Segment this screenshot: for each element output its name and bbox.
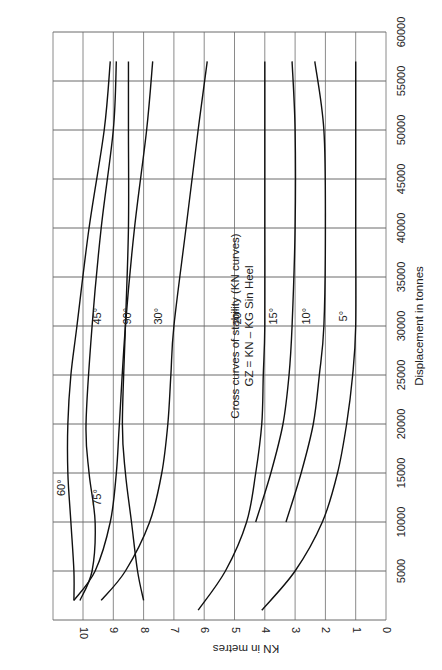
tick-label-displacement: 25000 bbox=[395, 360, 407, 391]
curves bbox=[67, 61, 355, 610]
tick-label-displacement: 20000 bbox=[395, 409, 407, 440]
tick-label-kn: 6 bbox=[199, 627, 211, 633]
curve-5-deg bbox=[262, 61, 356, 610]
displacement-tick-labels: 5000100001500020000250003000035000400004… bbox=[395, 17, 407, 584]
y-axis-label: KN in metres bbox=[213, 643, 280, 655]
tick-label-kn: 7 bbox=[169, 627, 181, 633]
tick-label-kn: 3 bbox=[290, 627, 302, 633]
chart-container: 5°10°15°20°30°45°60°75°90° 5000100001500… bbox=[0, 0, 442, 670]
chart-title: Cross curves of stability (KN curves) bbox=[229, 233, 241, 418]
grid bbox=[53, 32, 386, 620]
tick-label-kn: 5 bbox=[230, 627, 242, 633]
tick-label-kn: 10 bbox=[78, 627, 90, 639]
curve-label: 60° bbox=[55, 479, 67, 496]
tick-label-displacement: 15000 bbox=[395, 458, 407, 489]
curve-label: 75° bbox=[91, 489, 103, 506]
tick-label-kn: 4 bbox=[260, 627, 272, 633]
tick-label-kn: 2 bbox=[320, 627, 332, 633]
tick-label-kn: 1 bbox=[351, 627, 363, 633]
tick-label-displacement: 35000 bbox=[395, 262, 407, 293]
curve-label: 5° bbox=[337, 311, 349, 322]
curve-label: 90° bbox=[121, 308, 133, 325]
tick-label-displacement: 50000 bbox=[395, 115, 407, 146]
curve-label: 15° bbox=[267, 308, 279, 325]
tick-label-kn: 9 bbox=[108, 627, 120, 633]
tick-label-displacement: 40000 bbox=[395, 213, 407, 244]
tick-label-displacement: 55000 bbox=[395, 66, 407, 97]
tick-label-displacement: 45000 bbox=[395, 164, 407, 195]
tick-label-displacement: 10000 bbox=[395, 507, 407, 538]
curve-label: 10° bbox=[300, 308, 312, 325]
x-axis-label: Displacement in tonnes bbox=[413, 266, 425, 386]
curve-60-deg bbox=[67, 61, 110, 600]
curve-labels: 5°10°15°20°30°45°60°75°90° bbox=[55, 308, 349, 506]
tick-label-displacement: 5000 bbox=[395, 559, 407, 583]
tick-label-displacement: 60000 bbox=[395, 17, 407, 48]
curve-90-deg bbox=[122, 61, 143, 600]
chart-subtitle: GZ = KN – KG Sin Heel bbox=[243, 265, 255, 386]
tick-label-kn: 8 bbox=[139, 627, 151, 633]
curve-label: 30° bbox=[152, 308, 164, 325]
tick-label-kn: 0 bbox=[381, 627, 393, 633]
tick-label-displacement: 30000 bbox=[395, 311, 407, 342]
curve-label: 45° bbox=[91, 308, 103, 325]
kn-tick-labels: 012345678910 bbox=[78, 627, 393, 639]
curve-30-deg bbox=[101, 61, 207, 600]
kn-cross-curves-chart: 5°10°15°20°30°45°60°75°90° 5000100001500… bbox=[0, 0, 442, 670]
